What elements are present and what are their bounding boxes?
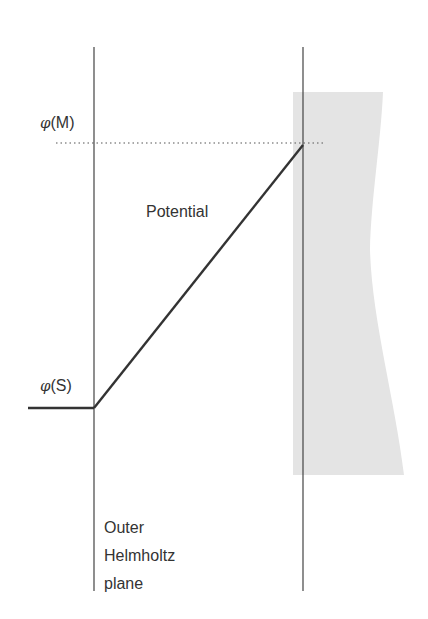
diagram-canvas xyxy=(0,0,428,619)
outer-helmholtz-plane-label: Outer Helmholtz plane xyxy=(104,514,175,598)
phi-s-arg: (S) xyxy=(51,377,72,394)
potential-label: Potential xyxy=(146,204,208,220)
phi-m-arg: (M) xyxy=(51,114,75,131)
phi-symbol: φ xyxy=(40,377,51,395)
phi-m-label: φ(M) xyxy=(40,115,75,131)
phi-symbol: φ xyxy=(40,114,51,132)
potential-drop-line xyxy=(94,145,303,408)
plane-label-line-1: Outer xyxy=(104,514,175,542)
plane-label-line-2: Helmholtz xyxy=(104,542,175,570)
electrode-region xyxy=(293,92,404,475)
plane-label-line-3: plane xyxy=(104,570,175,598)
phi-s-label: φ(S) xyxy=(40,378,72,394)
